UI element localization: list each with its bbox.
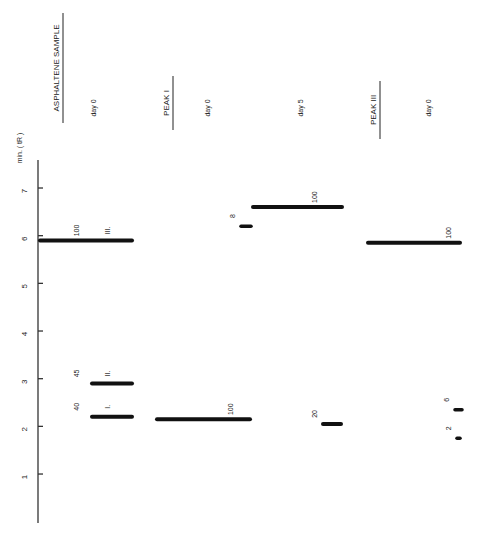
- chromatogram-chart: min. ( tR )1234567 ASPHALTENE SAMPLEday …: [0, 0, 488, 558]
- group-header: PEAK III: [369, 95, 378, 125]
- peak-value-label: 6: [443, 398, 450, 402]
- peak-id-label: I.: [104, 405, 111, 409]
- axis-tick-label: 1: [20, 474, 29, 479]
- peak-id-label: II.: [104, 370, 111, 376]
- column-label: day 0: [425, 99, 433, 116]
- peak-value-label: 45: [73, 369, 80, 377]
- column-label: day 5: [297, 99, 305, 116]
- group-header: PEAK I: [162, 90, 171, 116]
- axis-tick-label: 4: [20, 331, 29, 336]
- axis-label: min. ( tR ): [16, 133, 24, 164]
- peak-id-label: III.: [104, 227, 111, 235]
- peak-bars: 100III.45II.40I.10081002010062: [40, 191, 462, 438]
- peak-value-label: 100: [227, 403, 234, 415]
- axis-tick-label: 5: [20, 284, 29, 289]
- column-label: day 0: [90, 99, 98, 116]
- column-label: day 0: [204, 99, 212, 116]
- peak-value-label: 100: [311, 191, 318, 203]
- group-header: ASPHALTENE SAMPLE: [52, 25, 61, 112]
- peak-value-label: 100: [445, 227, 452, 239]
- peak-value-label: 8: [229, 214, 236, 218]
- axis-tick-label: 7: [20, 188, 29, 193]
- peak-value-label: 40: [73, 403, 80, 411]
- axis-tick-label: 6: [20, 236, 29, 241]
- peak-value-label: 2: [445, 426, 452, 430]
- axis-tick-label: 3: [20, 379, 29, 384]
- group-headers: ASPHALTENE SAMPLEday 0PEAK Iday 0day 5PE…: [52, 13, 433, 139]
- peak-value-label: 20: [311, 410, 318, 418]
- axis-tick-label: 2: [20, 427, 29, 432]
- time-axis: min. ( tR )1234567: [16, 133, 43, 523]
- peak-value-label: 100: [73, 225, 80, 237]
